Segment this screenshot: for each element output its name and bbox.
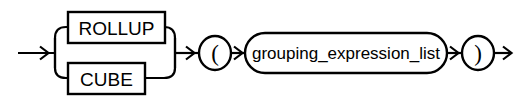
railroad-diagram: ROLLUP CUBE ( [0, 0, 525, 104]
railroad-diagram-canvas: ROLLUP CUBE ( [0, 0, 525, 104]
terminal-rollup[interactable]: ROLLUP [68, 12, 165, 43]
punctuation-open-paren-label: ( [211, 41, 219, 66]
punctuation-close-paren[interactable]: ) [462, 36, 494, 70]
punctuation-open-paren[interactable]: ( [199, 36, 231, 70]
connector-list-to-close-paren [447, 47, 462, 60]
terminal-cube[interactable]: CUBE [68, 63, 145, 94]
terminal-rollup-label: ROLLUP [78, 18, 154, 39]
connector-merge-to-open-paren [175, 47, 199, 60]
nonterminal-grouping-expression-list[interactable]: grouping_expression_list [245, 33, 447, 73]
nonterminal-grouping-expression-list-label: grouping_expression_list [252, 44, 440, 63]
branch-fork-left [55, 27, 68, 78]
terminal-cube-label: CUBE [80, 69, 133, 90]
punctuation-close-paren-label: ) [474, 41, 482, 66]
exit-arrow [494, 47, 512, 60]
entry-arrow [18, 47, 55, 60]
